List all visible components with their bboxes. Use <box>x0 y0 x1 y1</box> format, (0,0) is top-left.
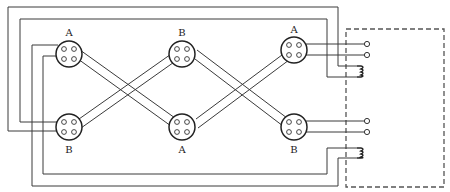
coil-top-icon <box>357 66 363 77</box>
terminal-bottom-1 <box>364 118 369 123</box>
wire-cross-2a <box>79 52 174 119</box>
wire-cross-1b <box>78 59 171 126</box>
connector-label: A <box>177 144 186 155</box>
connector-label: B <box>290 144 297 155</box>
connector-bottom-right: B <box>281 114 307 155</box>
connector-bottom-left: B <box>56 114 82 155</box>
connector-top-middle: B <box>169 27 195 67</box>
wire-cross-4b <box>198 60 289 128</box>
wire-cross-3b <box>195 59 283 126</box>
wire-outer-top-1 <box>8 7 357 131</box>
dashed-enclosure <box>346 29 444 187</box>
terminal-bottom-2 <box>364 129 369 134</box>
terminal-top-2 <box>364 52 369 57</box>
connector-top-right: A <box>281 24 307 63</box>
wire-outer-bottom-2 <box>43 56 357 174</box>
wire-cross-2b <box>81 60 177 128</box>
connector-bottom-middle: A <box>169 114 195 155</box>
terminal-top-1 <box>364 41 369 46</box>
wire-outer-bottom-1 <box>32 45 357 186</box>
connector-label: A <box>64 27 73 38</box>
connector-top-left: A <box>56 27 82 67</box>
connector-label: A <box>289 24 298 35</box>
connector-label: B <box>178 27 185 38</box>
coil-bottom-icon <box>357 148 363 158</box>
wire-cross-4a <box>196 52 286 119</box>
connector-label: B <box>65 144 72 155</box>
wiring-diagram: A B A B A B <box>0 0 450 192</box>
